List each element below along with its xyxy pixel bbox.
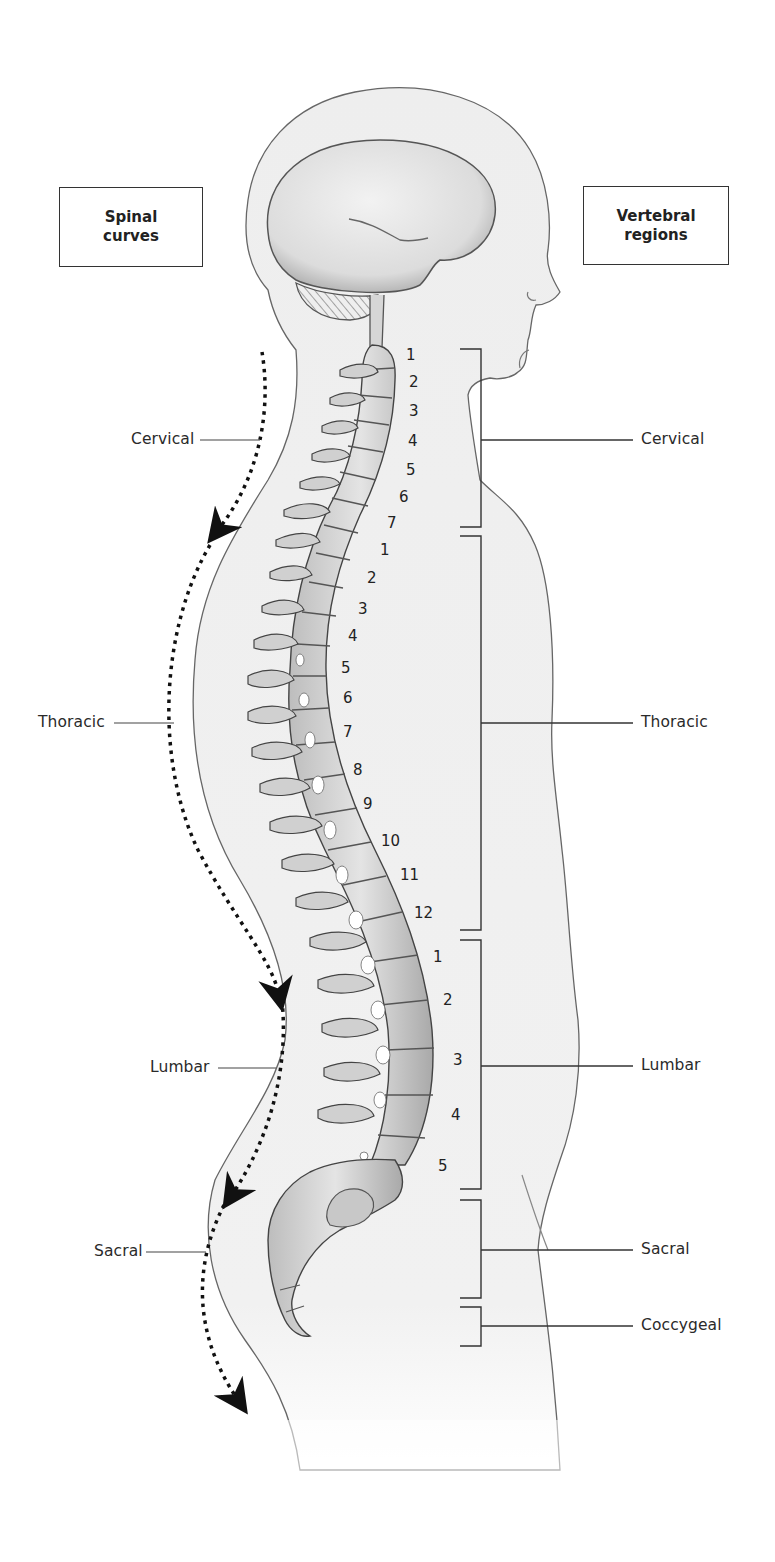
thoracic-vertebra-number: 6 <box>343 689 353 707</box>
vertebral-regions-title-box: Vertebral regions <box>583 186 729 265</box>
curve-label-lumbar: Lumbar <box>150 1058 210 1076</box>
cervical-vertebra-number: 1 <box>406 346 416 364</box>
region-label-thoracic: Thoracic <box>641 713 708 731</box>
thoracic-vertebra-number: 1 <box>380 541 390 559</box>
vertebral-regions-title-line2: regions <box>616 226 695 245</box>
thoracic-vertebra-number: 3 <box>358 600 368 618</box>
spine-diagram: Spinal curves Vertebral regions Cervical… <box>0 0 775 1562</box>
cervical-vertebra-number: 3 <box>409 402 419 420</box>
cervical-vertebra-number: 6 <box>399 488 409 506</box>
spinal-curves-title-line2: curves <box>103 227 159 246</box>
lumbar-vertebra-number: 3 <box>453 1051 463 1069</box>
curve-label-cervical: Cervical <box>131 430 194 448</box>
thoracic-vertebra-number: 9 <box>363 795 373 813</box>
spinal-curves-title-box: Spinal curves <box>59 187 203 267</box>
region-label-sacral: Sacral <box>641 1240 690 1258</box>
thoracic-vertebra-number: 12 <box>414 904 433 922</box>
cervical-vertebra-number: 5 <box>406 461 416 479</box>
thoracic-vertebra-number: 2 <box>367 569 377 587</box>
curve-label-sacral: Sacral <box>94 1242 143 1260</box>
body-outline <box>193 88 610 1500</box>
region-label-cervical: Cervical <box>641 430 704 448</box>
vertebral-regions-title-line1: Vertebral <box>616 207 695 226</box>
thoracic-vertebra-number: 5 <box>341 659 351 677</box>
lumbar-vertebra-number: 1 <box>433 948 443 966</box>
lumbar-vertebra-number: 4 <box>451 1106 461 1124</box>
thoracic-vertebra-number: 7 <box>343 723 353 741</box>
region-label-lumbar: Lumbar <box>641 1056 701 1074</box>
thoracic-vertebra-number: 10 <box>381 832 400 850</box>
cervical-vertebra-number: 7 <box>387 514 397 532</box>
cervical-vertebra-number: 2 <box>409 373 419 391</box>
spinal-curves-title-line1: Spinal <box>103 208 159 227</box>
lumbar-vertebra-number: 2 <box>443 991 453 1009</box>
curve-label-thoracic: Thoracic <box>38 713 105 731</box>
region-label-coccygeal: Coccygeal <box>641 1316 722 1334</box>
thoracic-vertebra-number: 4 <box>348 627 358 645</box>
thoracic-vertebra-number: 8 <box>353 761 363 779</box>
cervical-vertebra-number: 4 <box>408 432 418 450</box>
lumbar-vertebra-number: 5 <box>438 1157 448 1175</box>
thoracic-vertebra-number: 11 <box>400 866 419 884</box>
